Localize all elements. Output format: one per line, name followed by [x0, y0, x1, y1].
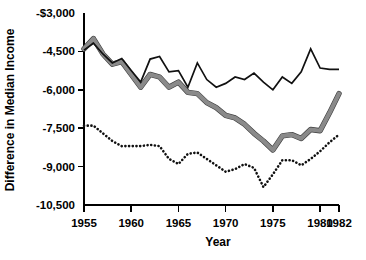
x-tick-label: 1970: [213, 217, 239, 229]
series-dotted-line: [84, 126, 339, 187]
x-tick-label: 1975: [260, 217, 286, 229]
x-axis-title: Year: [205, 235, 231, 249]
y-tick-label: -9,000: [42, 161, 75, 173]
plot-series: [84, 39, 339, 187]
income-difference-line-chart: -$3,000-4,500-6,000-7,500-9,000-10,500 1…: [0, 0, 366, 260]
y-tick-label: -7,500: [42, 122, 75, 134]
y-tick-label: -$3,000: [36, 7, 75, 19]
y-axis-ticks: [78, 51, 84, 166]
axis-lines: [84, 13, 339, 205]
x-axis-ticks: [84, 205, 339, 212]
y-axis-tick-labels: -$3,000-4,500-6,000-7,500-9,000-10,500: [36, 7, 75, 211]
plot-axes: [78, 13, 339, 212]
x-tick-label: 1960: [118, 217, 144, 229]
x-tick-label: 1965: [166, 217, 192, 229]
x-tick-label: 1982: [326, 217, 352, 229]
series-thick-gray-outline: [84, 39, 339, 150]
y-tick-label: -4,500: [42, 45, 75, 57]
x-tick-label: 1955: [71, 217, 97, 229]
series-thick-gray-line: [84, 39, 339, 150]
chart-container: -$3,000-4,500-6,000-7,500-9,000-10,500 1…: [0, 0, 366, 260]
x-axis-tick-labels: 1955196019651970197519801982: [71, 217, 352, 229]
y-tick-label: -6,000: [42, 84, 75, 96]
y-tick-label: -10,500: [36, 199, 75, 211]
y-axis-title: Difference in Median Income: [3, 28, 17, 191]
